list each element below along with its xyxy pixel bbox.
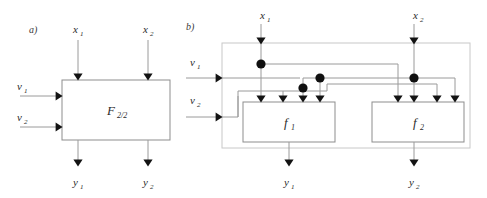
panel-b-v2-sub: 2 [197, 101, 201, 109]
panel-a-x1-label: x [72, 23, 78, 35]
panel-b-label: b) [186, 21, 195, 33]
panel-b-x1-sub: 1 [267, 16, 271, 24]
block-f22-name: F [106, 103, 116, 118]
panel-b-y2-arrowhead [409, 160, 418, 167]
panel-b-input-x1: x 1 [256, 9, 270, 103]
block-f22-subscript: 2/2 [117, 111, 127, 120]
panel-b-output-y1: y 1 [283, 142, 295, 191]
panel-b-x1-label: x [259, 9, 265, 21]
panel-a-input-v2: v 2 [17, 111, 63, 132]
panel-b-input-v2: v 2 [186, 91, 327, 122]
panel-b: b) f 1 f 2 x 1 x 2 [186, 9, 470, 191]
panel-b-y1-sub: 1 [291, 183, 295, 191]
junction-dot-x1 [256, 59, 265, 68]
panel-a-y1-label: y [72, 176, 78, 188]
junction-dot-v2 [298, 83, 307, 92]
panel-b-v2-label: v [190, 94, 195, 106]
panel-a-y2-sub: 2 [150, 183, 154, 191]
panel-b-y1-arrowhead [284, 160, 293, 167]
block-f1-subscript: 1 [291, 123, 295, 132]
panel-a-x2-sub: 2 [150, 30, 154, 38]
panel-a-y1-sub: 1 [80, 183, 84, 191]
panel-a-y2-label: y [142, 176, 148, 188]
panel-a-output-y2: y 2 [142, 140, 154, 191]
panel-b-x2-arrowhead-enclosure [409, 38, 418, 45]
panel-a: a) F 2/2 x 1 x 2 v 1 v [17, 23, 170, 191]
block-f2-label: f 2 [413, 115, 424, 132]
panel-b-input-v1: v 1 [186, 56, 300, 83]
panel-a-label: a) [29, 24, 38, 36]
junction-dot-x2 [409, 73, 418, 82]
figure-root: a) F 2/2 x 1 x 2 v 1 v [0, 0, 487, 198]
panel-a-y2-arrowhead [143, 160, 152, 167]
block-f1-label: f 1 [284, 115, 295, 132]
panel-a-v2-label: v [17, 111, 22, 123]
block-f2-name: f [413, 115, 419, 130]
panel-b-outer-enclosure [222, 43, 470, 148]
panel-a-v1-sub: 1 [24, 87, 28, 95]
panel-a-x1-sub: 1 [80, 30, 84, 38]
panel-b-y2-label: y [408, 176, 414, 188]
panel-b-x1-arrowhead-enclosure [256, 38, 265, 45]
panel-a-v2-sub: 2 [24, 118, 28, 126]
panel-b-x2-label: x [412, 9, 418, 21]
block-f1-name: f [284, 115, 290, 130]
panel-b-v1-label: v [190, 56, 195, 68]
panel-b-output-y2: y 2 [408, 142, 420, 191]
panel-a-input-v1: v 1 [17, 80, 63, 101]
panel-a-input-x1: x 1 [72, 23, 84, 81]
panel-b-y1-label: y [283, 176, 289, 188]
junction-dot-v1 [315, 73, 324, 82]
panel-b-v1-sub: 1 [197, 63, 201, 71]
panel-b-y2-sub: 2 [416, 183, 420, 191]
panel-b-input-x2: x 2 [409, 9, 424, 103]
block-f22 [62, 80, 170, 140]
block-f1 [243, 102, 335, 142]
diagram-svg: a) F 2/2 x 1 x 2 v 1 v [0, 0, 487, 198]
block-f2-subscript: 2 [420, 123, 424, 132]
panel-a-input-x2: x 2 [142, 23, 154, 81]
panel-a-x2-label: x [142, 23, 148, 35]
panel-a-output-y1: y 1 [72, 140, 84, 191]
panel-a-v1-label: v [17, 80, 22, 92]
panel-b-x2-sub: 2 [420, 16, 424, 24]
block-f2 [372, 102, 464, 142]
panel-a-y1-arrowhead [73, 160, 82, 167]
block-f22-label: F 2/2 [106, 103, 127, 120]
